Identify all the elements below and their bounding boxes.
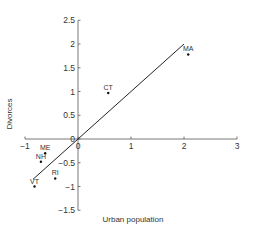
- point-label-ct: CT: [104, 84, 114, 91]
- data-point-ct: [107, 92, 109, 94]
- y-tick-label: −1: [65, 182, 75, 192]
- y-tick-label: 2.5: [63, 15, 75, 25]
- point-label-me: ME: [40, 144, 51, 151]
- x-tick-label: 2: [182, 141, 187, 151]
- x-tick-label: −1: [20, 141, 30, 151]
- y-tick-label: 0.5: [63, 110, 75, 120]
- y-tick-label: −0.5: [58, 158, 75, 168]
- x-tick-label: 0: [76, 141, 81, 151]
- fit-line: [33, 44, 184, 179]
- y-tick-label: 1: [70, 87, 75, 97]
- data-point-ri: [54, 177, 56, 179]
- data-point-ma: [187, 53, 189, 55]
- point-label-vt: VT: [30, 178, 40, 185]
- point-label-nh: NH: [36, 153, 46, 160]
- y-tick-label: −1.5: [58, 205, 75, 215]
- regression-line: [33, 44, 184, 179]
- axes: −10123−1.5−1−0.500.511.522.5: [20, 15, 239, 215]
- point-label-ma: MA: [183, 45, 194, 52]
- y-tick-label: 2: [70, 39, 75, 49]
- scatter-chart: −10123−1.5−1−0.500.511.522.5 MACTMENHRIV…: [0, 0, 253, 232]
- data-point-nh: [40, 161, 42, 163]
- point-label-ri: RI: [52, 169, 59, 176]
- x-tick-label: 3: [235, 141, 240, 151]
- x-axis-title: Urban population: [103, 215, 164, 224]
- x-tick-label: 1: [129, 141, 134, 151]
- data-point-vt: [33, 185, 35, 187]
- y-tick-label: 1.5: [63, 63, 75, 73]
- y-axis-title: Divorces: [5, 98, 14, 129]
- data-points: MACTMENHRIVT: [30, 45, 194, 187]
